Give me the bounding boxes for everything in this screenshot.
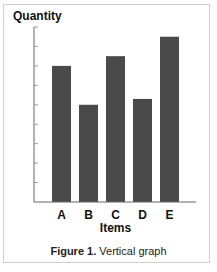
- bar-c: [106, 56, 125, 202]
- x-tick-label: C: [111, 208, 120, 222]
- bar-e: [160, 37, 179, 202]
- x-tick-label: B: [84, 208, 93, 222]
- bar-b: [79, 105, 98, 202]
- caption-label: Figure 1.: [50, 245, 96, 257]
- figure-caption: Figure 1. Vertical graph: [0, 245, 217, 257]
- x-tick-label: A: [57, 208, 66, 222]
- x-tick-label: E: [165, 208, 173, 222]
- x-tick-label: D: [138, 208, 147, 222]
- caption-text: Vertical graph: [96, 245, 166, 257]
- bar-a: [52, 66, 71, 202]
- bar-d: [133, 99, 152, 202]
- x-axis-title: Items: [0, 221, 217, 235]
